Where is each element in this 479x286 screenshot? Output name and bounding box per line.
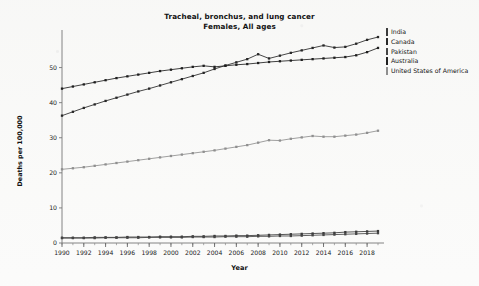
legend-swatch-icon: [386, 67, 388, 75]
legend-item-australia[interactable]: Australia: [386, 57, 468, 65]
y-axis-label: Deaths per 100,000: [6, 0, 14, 96]
legend-swatch-icon: [386, 48, 388, 56]
legend-item-pakistan[interactable]: Pakistan: [386, 48, 468, 56]
svg-text:2002: 2002: [185, 249, 201, 256]
svg-text:1998: 1998: [141, 249, 157, 256]
legend-label: India: [391, 28, 406, 36]
svg-text:0: 0: [53, 239, 57, 246]
svg-text:2008: 2008: [250, 249, 266, 256]
svg-text:2016: 2016: [338, 249, 354, 256]
svg-text:2000: 2000: [163, 249, 179, 256]
legend-label: Canada: [391, 38, 415, 46]
svg-text:50: 50: [49, 64, 57, 71]
svg-text:2004: 2004: [207, 249, 223, 256]
legend-item-india[interactable]: India: [386, 28, 468, 36]
series-canada: [61, 36, 379, 117]
legend-swatch-icon: [386, 28, 388, 36]
svg-text:40: 40: [49, 99, 57, 106]
data-series: [61, 36, 379, 239]
svg-text:1992: 1992: [76, 249, 92, 256]
svg-text:10: 10: [49, 204, 57, 211]
svg-text:2006: 2006: [229, 249, 245, 256]
legend-label: Pakistan: [391, 48, 417, 56]
svg-text:1994: 1994: [98, 249, 114, 256]
legend-label: Australia: [391, 57, 418, 65]
svg-text:2014: 2014: [316, 249, 332, 256]
series-australia: [61, 47, 379, 90]
svg-text:2012: 2012: [294, 249, 310, 256]
svg-text:2010: 2010: [272, 249, 288, 256]
series-united-states-of-america: [61, 130, 379, 171]
chart-figure: Tracheal, bronchus, and lung cancer Fema…: [0, 0, 479, 286]
legend-swatch-icon: [386, 38, 388, 46]
svg-text:1990: 1990: [54, 249, 70, 256]
axes: 0102030405019901992199419961998200020022…: [49, 30, 384, 256]
legend-swatch-icon: [386, 57, 388, 65]
svg-text:1996: 1996: [120, 249, 136, 256]
legend-label: United States of America: [391, 67, 468, 75]
x-axis-label: Year: [0, 264, 479, 272]
svg-text:30: 30: [49, 134, 57, 141]
chart-legend: IndiaCanadaPakistanAustraliaUnited State…: [386, 28, 468, 75]
legend-item-canada[interactable]: Canada: [386, 38, 468, 46]
svg-text:20: 20: [49, 169, 57, 176]
legend-item-united-states-of-america[interactable]: United States of America: [386, 67, 468, 75]
svg-text:2018: 2018: [359, 249, 375, 256]
